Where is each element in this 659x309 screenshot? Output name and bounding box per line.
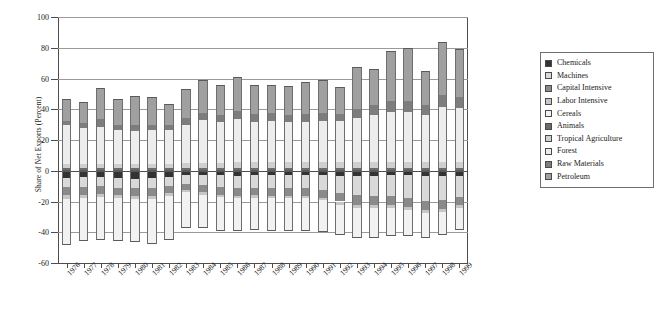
bar-segment [164, 186, 174, 193]
bar-segment [233, 119, 243, 162]
y-tick-label: 60 [41, 74, 49, 83]
bar-segment [96, 186, 106, 194]
bar-segment [438, 176, 448, 200]
y-tick--20 [51, 202, 58, 203]
bar-segment [250, 168, 260, 171]
bar-segment [318, 175, 328, 190]
bar-segment [198, 195, 208, 229]
bar-segment [318, 121, 328, 163]
bar-segment [233, 162, 243, 167]
bar-segment [164, 125, 174, 130]
legend-item-label: Tropical Agriculture [557, 135, 622, 143]
bar-column [62, 17, 72, 263]
bar-segment [318, 168, 328, 171]
bar-segment [181, 168, 191, 171]
bar-segment [198, 80, 208, 113]
bar-segment [352, 109, 362, 117]
bar-column [147, 17, 157, 263]
bar-segment [438, 95, 448, 107]
bar-segment [233, 188, 243, 196]
bar-segment [318, 190, 328, 198]
bar-column [403, 17, 413, 263]
bar-segment [318, 113, 328, 121]
bar-segment [369, 196, 379, 205]
bar-segment [130, 131, 140, 164]
bar-segment [318, 80, 328, 113]
bar-segment [130, 188, 140, 196]
bar-segment [438, 107, 448, 162]
legend-swatch-icon [545, 98, 552, 105]
bar-segment [96, 119, 106, 127]
bar-segment [147, 164, 157, 168]
bar-segment [438, 168, 448, 171]
bar-segment [216, 85, 226, 115]
bar-segment [79, 123, 89, 128]
bar-segment [421, 162, 431, 167]
bar-segment [284, 188, 294, 196]
bar-segment [164, 177, 174, 186]
bar-segment [113, 130, 123, 164]
bar-segment [130, 96, 140, 125]
bar-column [113, 17, 123, 263]
legend-swatch-icon [545, 60, 552, 67]
y-tick-0 [51, 171, 58, 172]
bar-segment [352, 168, 362, 171]
bar-segment [455, 208, 465, 230]
bar-column [438, 17, 448, 263]
bar-segment [267, 121, 277, 163]
legend-swatch-icon [545, 85, 552, 92]
bar-segment [62, 168, 72, 171]
legend-item: Chemicals [545, 57, 648, 70]
legend-item-label: Petroleum [557, 173, 590, 181]
bar-segment [421, 71, 431, 106]
bar-segment [130, 164, 140, 168]
legend-swatch-icon [545, 110, 552, 117]
bar-segment [386, 51, 396, 101]
legend-item: Labor Intensive [545, 95, 648, 108]
bar-segment [267, 175, 277, 188]
bar-column [198, 17, 208, 263]
legend-item: Raw Materials [545, 158, 648, 171]
bar-segment [335, 114, 345, 121]
bar-segment [438, 42, 448, 94]
bar-segment [130, 168, 140, 171]
bar-segment [403, 175, 413, 197]
bar-segment [79, 102, 89, 123]
bar-segment [147, 168, 157, 171]
bar-segment [301, 82, 311, 114]
bar-segment [421, 176, 431, 201]
bar-segment [369, 115, 379, 163]
bar-segment [147, 188, 157, 196]
bar-segment [403, 101, 413, 112]
bar-segment [216, 197, 226, 231]
bar-segment [267, 188, 277, 196]
bar-segment [233, 198, 243, 230]
bar-segment [267, 85, 277, 113]
bar-segment [421, 213, 431, 238]
legend-item-label: Cereals [557, 110, 581, 118]
y-tick-label: 20 [41, 136, 49, 145]
bar-column [233, 17, 243, 263]
bar-segment [352, 67, 362, 109]
bar-segment [369, 69, 379, 105]
bar-segment [386, 101, 396, 112]
bar-segment [130, 179, 140, 188]
y-tick-label: 100 [37, 13, 49, 22]
bar-segment [113, 164, 123, 168]
bar-segment [113, 125, 123, 130]
bar-segment [62, 121, 72, 126]
bar-segment [335, 193, 345, 201]
bar-segment [438, 212, 448, 234]
bar-segment [250, 162, 260, 167]
bar-segment [386, 162, 396, 167]
bar-column [318, 17, 328, 263]
bar-segment [79, 177, 89, 187]
bar-segment [352, 176, 362, 195]
bar-segment [386, 208, 396, 236]
bar-segment [421, 105, 431, 114]
legend-item-label: Forest [557, 147, 577, 155]
bar-segment [438, 200, 448, 209]
y-tick-80 [51, 48, 58, 49]
bar-segment [455, 162, 465, 167]
bar-segment [62, 171, 72, 178]
